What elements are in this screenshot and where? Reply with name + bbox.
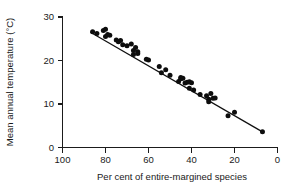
x-tick-label: 0 bbox=[275, 154, 280, 165]
x-axis-title: Per cent of entire-margined species bbox=[97, 171, 247, 182]
chart-canvas: 0102030 100806040200 Per cent of entire-… bbox=[0, 0, 298, 193]
data-point bbox=[187, 86, 192, 91]
data-point bbox=[129, 41, 134, 46]
data-point bbox=[180, 76, 185, 81]
data-point bbox=[191, 88, 196, 93]
data-point bbox=[159, 70, 164, 75]
plot-frame bbox=[62, 17, 278, 148]
data-point bbox=[208, 91, 213, 96]
data-point bbox=[146, 58, 151, 63]
x-axis-ticks: 100806040200 bbox=[55, 148, 281, 166]
y-tick-label: 30 bbox=[43, 11, 54, 22]
x-tick-label: 20 bbox=[229, 154, 240, 165]
x-tick-label: 80 bbox=[100, 154, 111, 165]
scatter-plot-figure: 0102030 100806040200 Per cent of entire-… bbox=[0, 0, 298, 193]
data-point bbox=[198, 92, 203, 97]
data-point bbox=[213, 95, 218, 100]
y-tick-label: 20 bbox=[43, 55, 54, 66]
y-axis-title: Mean annual temperature (°C) bbox=[4, 18, 15, 146]
data-point bbox=[135, 51, 140, 56]
data-point bbox=[189, 80, 194, 85]
data-point bbox=[168, 73, 173, 78]
data-point bbox=[232, 110, 237, 115]
y-tick-label: 10 bbox=[43, 98, 54, 109]
data-point bbox=[107, 33, 112, 38]
data-point bbox=[226, 113, 231, 118]
data-point bbox=[133, 45, 138, 50]
data-point bbox=[90, 29, 95, 34]
data-point bbox=[131, 52, 136, 57]
data-point bbox=[120, 42, 125, 47]
data-point bbox=[125, 43, 130, 48]
data-point bbox=[94, 31, 99, 36]
y-tick-label: 0 bbox=[49, 142, 54, 153]
x-tick-label: 40 bbox=[186, 154, 197, 165]
data-point bbox=[260, 129, 265, 134]
data-point bbox=[157, 64, 162, 69]
x-tick-label: 100 bbox=[55, 154, 71, 165]
x-tick-label: 60 bbox=[143, 154, 154, 165]
data-point bbox=[118, 38, 123, 43]
y-axis-ticks: 0102030 bbox=[43, 11, 62, 153]
data-point bbox=[163, 67, 168, 72]
data-point bbox=[103, 27, 108, 32]
data-point bbox=[206, 99, 211, 104]
